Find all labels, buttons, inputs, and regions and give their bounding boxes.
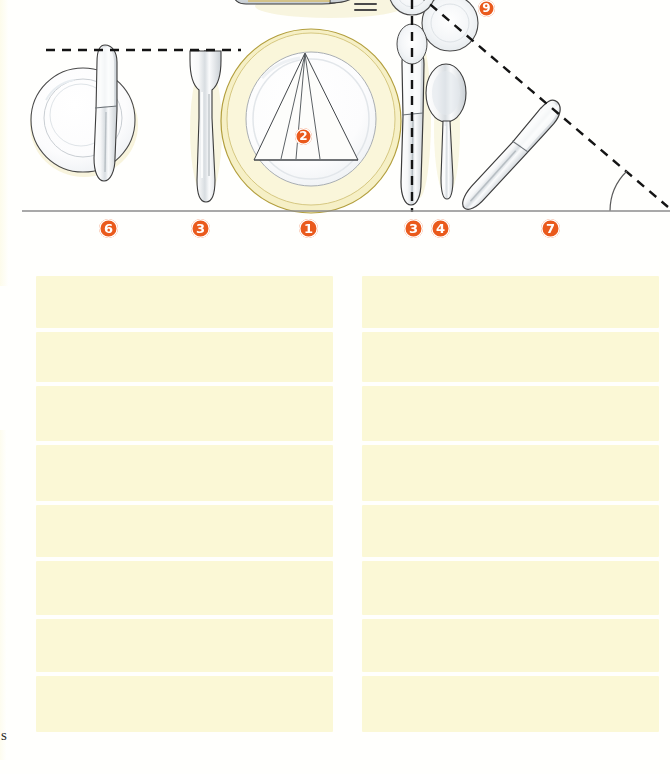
callout-badge-9[interactable]: 9 [478,0,495,17]
text-line-block [36,445,333,501]
text-line-block [362,386,659,441]
text-line-block [36,276,333,328]
callout-badge-3-knife[interactable]: 3 [404,219,423,238]
callout-badge-6[interactable]: 6 [99,219,118,238]
text-line-block [36,386,333,441]
text-line-block [362,676,659,732]
soup-spoon-icon [426,64,466,199]
text-column-left [36,260,333,736]
scanned-page: 6 3 1 3 4 7 2 9 s [0,0,670,774]
callout-badge-2[interactable]: 2 [295,128,312,145]
text-column-right [362,260,659,736]
text-line-block [362,619,659,672]
angled-butter-knife-icon [458,96,566,216]
callout-badge-3-fork[interactable]: 3 [191,219,210,238]
text-line-block [36,676,333,732]
body-text-area: s [0,260,670,774]
place-setting-illustration [0,0,670,260]
callout-badge-7[interactable]: 7 [541,219,560,238]
text-line-block [36,332,333,382]
butter-knife-on-plate-icon [94,45,117,181]
text-line-block [36,619,333,672]
text-line-block [362,445,659,501]
text-line-block [362,276,659,328]
orphan-character: s [1,727,7,744]
bread-plate-icon [31,68,135,172]
callout-badge-1[interactable]: 1 [299,219,318,238]
angle-arc [610,171,627,211]
text-line-block [362,561,659,615]
text-line-block [36,505,333,557]
text-line-block [362,505,659,557]
water-glass-icon [422,0,478,51]
callout-badge-4[interactable]: 4 [431,219,450,238]
text-line-block [36,561,333,615]
text-line-block [362,332,659,382]
sherry-glass-icon [397,24,427,64]
